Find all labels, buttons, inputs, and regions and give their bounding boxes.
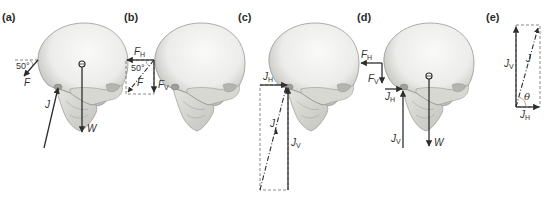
panel-b — [126, 23, 245, 131]
vector-label-j: J — [526, 54, 531, 64]
vector-label-fv: FV — [368, 74, 379, 85]
vector-label-j: J — [270, 119, 275, 129]
vector-label-w: W — [434, 138, 443, 148]
skull-force-diagram — [0, 0, 556, 198]
angle-label: 50° — [131, 64, 145, 73]
vector-label-jv: JV — [291, 138, 301, 149]
panel-label-c: (c) — [238, 11, 251, 23]
panel-d — [361, 23, 474, 148]
vector-label-j: J — [45, 100, 50, 110]
vector-label-jv: JV — [391, 134, 401, 145]
panel-a — [15, 23, 128, 148]
panel-label-d: (d) — [357, 11, 371, 23]
vector-label-f: F — [24, 78, 30, 88]
angle-label: 50° — [16, 62, 30, 71]
panel-label-b: (b) — [124, 11, 138, 23]
vector-label-f: F — [137, 78, 143, 88]
vector-label-jv: JV — [504, 59, 514, 70]
vector-label-w: W — [87, 124, 96, 134]
panel-label-e: (e) — [486, 11, 499, 23]
vector-label-jh: JH — [520, 110, 530, 121]
vector-label-fv: FV — [158, 80, 169, 91]
angle-label-theta: θ — [524, 92, 530, 102]
vector-label-jh: JH — [263, 72, 273, 83]
panel-label-a: (a) — [2, 11, 15, 23]
panel-c — [260, 23, 359, 190]
joint-force-j-arrow — [260, 88, 286, 190]
joint-force-j-arrow — [44, 88, 58, 148]
vector-label-jh: JH — [385, 92, 395, 103]
vector-label-fh: FH — [361, 50, 372, 61]
vector-label-fh: FH — [134, 47, 145, 58]
